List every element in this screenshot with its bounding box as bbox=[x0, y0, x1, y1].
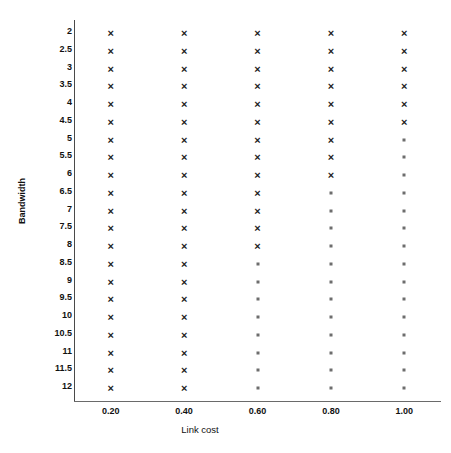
y-tick-label: 11 bbox=[30, 346, 72, 355]
small-dot-marker bbox=[256, 333, 259, 336]
x-tick-label: 1.00 bbox=[374, 406, 434, 416]
bold-cross-marker: × bbox=[401, 45, 407, 56]
bold-cross-marker: × bbox=[401, 81, 407, 92]
y-tick-label: 9.5 bbox=[30, 293, 72, 302]
small-dot-marker bbox=[403, 191, 406, 194]
y-tick-label: 7 bbox=[30, 204, 72, 213]
bold-cross-marker: × bbox=[181, 63, 187, 74]
x-tick-label: 0.60 bbox=[228, 406, 288, 416]
bold-cross-marker: × bbox=[107, 45, 113, 56]
bold-cross-marker: × bbox=[181, 223, 187, 234]
bold-cross-marker: × bbox=[254, 116, 260, 127]
small-dot-marker bbox=[403, 369, 406, 372]
bold-cross-marker: × bbox=[107, 276, 113, 287]
bold-cross-marker: × bbox=[107, 134, 113, 145]
bold-cross-marker: × bbox=[181, 365, 187, 376]
small-dot-marker bbox=[329, 369, 332, 372]
bold-cross-marker: × bbox=[107, 187, 113, 198]
small-dot-marker bbox=[403, 138, 406, 141]
bold-cross-marker: × bbox=[181, 134, 187, 145]
bold-cross-marker: × bbox=[107, 205, 113, 216]
small-dot-marker bbox=[256, 280, 259, 283]
plot-area: ××××××××××××××××××××××××××××××××××××××××… bbox=[74, 20, 441, 401]
x-tick-label: 0.80 bbox=[301, 406, 361, 416]
y-tick-label: 8 bbox=[30, 240, 72, 249]
small-dot-marker bbox=[403, 351, 406, 354]
small-dot-marker bbox=[403, 245, 406, 248]
small-dot-marker bbox=[403, 298, 406, 301]
bold-cross-marker: × bbox=[254, 152, 260, 163]
y-tick-label: 7.5 bbox=[30, 222, 72, 231]
y-tick-label: 4.5 bbox=[30, 115, 72, 124]
bold-cross-marker: × bbox=[107, 99, 113, 110]
bold-cross-marker: × bbox=[107, 241, 113, 252]
bold-cross-marker: × bbox=[254, 241, 260, 252]
x-tick-label: 0.20 bbox=[81, 406, 141, 416]
y-axis-tick-labels: 22.533.544.555.566.577.588.599.51010.511… bbox=[30, 18, 74, 401]
small-dot-marker bbox=[329, 245, 332, 248]
bold-cross-marker: × bbox=[254, 187, 260, 198]
bold-cross-marker: × bbox=[181, 241, 187, 252]
bold-cross-marker: × bbox=[107, 223, 113, 234]
small-dot-marker bbox=[329, 298, 332, 301]
bold-cross-marker: × bbox=[254, 63, 260, 74]
bold-cross-marker: × bbox=[181, 258, 187, 269]
bold-cross-marker: × bbox=[328, 170, 334, 181]
bold-cross-marker: × bbox=[107, 170, 113, 181]
y-tick-label: 12 bbox=[30, 382, 72, 391]
bold-cross-marker: × bbox=[181, 28, 187, 39]
bold-cross-marker: × bbox=[181, 294, 187, 305]
small-dot-marker bbox=[256, 298, 259, 301]
bold-cross-marker: × bbox=[107, 329, 113, 340]
small-dot-marker bbox=[329, 280, 332, 283]
small-dot-marker bbox=[256, 316, 259, 319]
bold-cross-marker: × bbox=[328, 99, 334, 110]
bold-cross-marker: × bbox=[107, 258, 113, 269]
x-axis-tick-labels: 0.200.400.600.801.00 bbox=[74, 406, 441, 422]
y-axis-title: Bandwidth bbox=[17, 151, 27, 251]
y-tick-label: 5 bbox=[30, 133, 72, 142]
bold-cross-marker: × bbox=[254, 81, 260, 92]
bold-cross-marker: × bbox=[107, 116, 113, 127]
small-dot-marker bbox=[256, 262, 259, 265]
y-tick-label: 9 bbox=[30, 275, 72, 284]
bold-cross-marker: × bbox=[254, 99, 260, 110]
bold-cross-marker: × bbox=[107, 152, 113, 163]
bold-cross-marker: × bbox=[401, 28, 407, 39]
bold-cross-marker: × bbox=[181, 312, 187, 323]
y-tick-label: 5.5 bbox=[30, 151, 72, 160]
small-dot-marker bbox=[329, 191, 332, 194]
x-tick-label: 0.40 bbox=[154, 406, 214, 416]
bold-cross-marker: × bbox=[328, 116, 334, 127]
bold-cross-marker: × bbox=[401, 99, 407, 110]
scatter-chart: Bandwidth 22.533.544.555.566.577.588.599… bbox=[0, 0, 451, 453]
bold-cross-marker: × bbox=[181, 170, 187, 181]
bold-cross-marker: × bbox=[254, 205, 260, 216]
small-dot-marker bbox=[256, 351, 259, 354]
bold-cross-marker: × bbox=[328, 81, 334, 92]
small-dot-marker bbox=[256, 369, 259, 372]
bold-cross-marker: × bbox=[181, 347, 187, 358]
bold-cross-marker: × bbox=[181, 152, 187, 163]
y-tick-label: 4 bbox=[30, 98, 72, 107]
small-dot-marker bbox=[403, 262, 406, 265]
bold-cross-marker: × bbox=[107, 63, 113, 74]
y-tick-label: 2.5 bbox=[30, 44, 72, 53]
small-dot-marker bbox=[403, 227, 406, 230]
bold-cross-marker: × bbox=[181, 276, 187, 287]
bold-cross-marker: × bbox=[181, 45, 187, 56]
bold-cross-marker: × bbox=[107, 294, 113, 305]
bold-cross-marker: × bbox=[328, 63, 334, 74]
small-dot-marker bbox=[403, 156, 406, 159]
bold-cross-marker: × bbox=[107, 28, 113, 39]
y-tick-label: 6 bbox=[30, 169, 72, 178]
small-dot-marker bbox=[329, 316, 332, 319]
small-dot-marker bbox=[403, 387, 406, 390]
small-dot-marker bbox=[403, 333, 406, 336]
small-dot-marker bbox=[329, 351, 332, 354]
bold-cross-marker: × bbox=[107, 365, 113, 376]
bold-cross-marker: × bbox=[254, 45, 260, 56]
bold-cross-marker: × bbox=[181, 116, 187, 127]
y-tick-label: 10.5 bbox=[30, 328, 72, 337]
bold-cross-marker: × bbox=[328, 28, 334, 39]
